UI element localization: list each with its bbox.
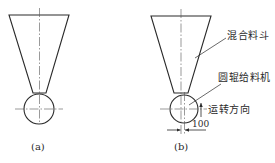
dimension-value: 100 <box>192 120 209 129</box>
panel-a <box>9 8 69 124</box>
label-rotation-direction: 运转方向 <box>208 105 250 115</box>
diagram-canvas: (a) (b) 混合料斗 圆辊给料机 运转方向 100 <box>0 0 275 163</box>
panel-b <box>151 9 226 134</box>
leader-hopper <box>195 38 226 58</box>
caption-a: (a) <box>31 142 45 152</box>
label-roller-feeder: 圆辊给料机 <box>218 73 271 83</box>
label-mixed-hopper: 混合料斗 <box>227 31 269 41</box>
hopper-a <box>9 15 69 93</box>
caption-b: (b) <box>174 142 188 152</box>
leader-roller-feeder <box>189 84 221 105</box>
